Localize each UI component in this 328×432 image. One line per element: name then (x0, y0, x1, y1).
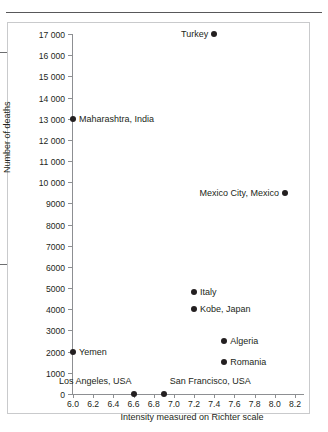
y-axis-tick: 15 000 (68, 76, 72, 77)
y-axis-tick-label: 4000 (46, 306, 65, 315)
y-axis-title: Number of deaths (2, 101, 12, 173)
data-point-label: Los Angeles, USA (59, 377, 132, 386)
y-axis-tick-label: 0 (60, 391, 65, 400)
y-axis-tick: 1000 (68, 373, 72, 374)
data-point-label: San Francisco, USA (170, 377, 251, 386)
x-axis-tick (113, 394, 114, 398)
data-point (221, 338, 227, 344)
x-axis-tick (255, 394, 256, 398)
x-axis-title: Intensity measured on Richter scale (73, 412, 311, 422)
data-point-label: Italy (200, 288, 217, 297)
y-axis-tick-label: 3000 (46, 327, 65, 336)
y-axis-tick: 5000 (68, 288, 72, 289)
y-axis-tick-label: 16 000 (39, 52, 65, 61)
y-axis-tick-label: 6000 (46, 264, 65, 273)
y-axis-tick: 8000 (68, 225, 72, 226)
x-axis-tick (275, 394, 276, 398)
plot-area: TurkeyMaharashtra, IndiaMexico City, Mex… (73, 34, 311, 394)
data-point-label: Yemen (79, 347, 107, 356)
data-point-label: Maharashtra, India (79, 114, 154, 123)
x-axis-line (72, 394, 304, 395)
y-axis-tick-label: 13 000 (39, 115, 65, 124)
y-axis-tick-label: 11 000 (39, 158, 65, 167)
x-axis-tick (234, 394, 235, 398)
y-axis-tick: 14 000 (68, 98, 72, 99)
data-point (221, 359, 227, 365)
y-axis-tick-label: 15 000 (39, 73, 65, 82)
y-axis-tick: 0 (68, 394, 72, 395)
data-point (282, 190, 288, 196)
x-axis-tick-label: 7.2 (188, 400, 200, 409)
x-axis-tick-label: 7.8 (249, 400, 261, 409)
y-axis-tick: 6000 (68, 267, 72, 268)
y-axis-tick: 4000 (68, 309, 72, 310)
x-axis-tick (93, 394, 94, 398)
x-axis-tick (295, 394, 296, 398)
y-axis-tick-label: 14 000 (39, 94, 65, 103)
x-axis-tick-label: 8.2 (289, 400, 301, 409)
x-axis-tick-label: 7.6 (228, 400, 240, 409)
y-axis-tick-label: 5000 (46, 285, 65, 294)
x-axis-tick (194, 394, 195, 398)
y-axis-tick: 11 000 (68, 161, 72, 162)
y-axis-tick-label: 17 000 (39, 31, 65, 40)
chart-figure: 010002000300040005000600070008000900010 … (7, 22, 310, 414)
page-top-rule (6, 12, 322, 13)
data-point-label: Mexico City, Mexico (200, 188, 279, 197)
x-axis-tick-label: 6.4 (107, 400, 119, 409)
data-point (191, 306, 197, 312)
x-axis-tick-label: 6.8 (148, 400, 160, 409)
data-point (131, 391, 137, 397)
y-axis-tick-label: 2000 (46, 348, 65, 357)
x-axis-tick (174, 394, 175, 398)
y-axis-tick: 7000 (68, 246, 72, 247)
y-axis-tick-label: 12 000 (39, 137, 65, 146)
data-point (191, 289, 197, 295)
x-axis-tick-label: 6.6 (128, 400, 140, 409)
data-point-label: Kobe, Japan (200, 305, 251, 314)
y-axis-tick-label: 10 000 (39, 179, 65, 188)
y-axis-tick: 16 000 (68, 55, 72, 56)
y-axis-tick-label: 9000 (46, 200, 65, 209)
y-axis-tick: 10 000 (68, 182, 72, 183)
y-axis-tick: 9000 (68, 203, 72, 204)
data-point-label: Algeria (230, 337, 258, 346)
data-point (70, 116, 76, 122)
data-point (70, 349, 76, 355)
x-axis-tick-label: 6.2 (87, 400, 99, 409)
x-axis-tick-label: 8.0 (269, 400, 281, 409)
x-axis-tick-label: 7.0 (168, 400, 180, 409)
x-axis-tick-label: 7.4 (208, 400, 220, 409)
y-axis-tick: 17 000 (68, 34, 72, 35)
x-axis-tick (73, 394, 74, 398)
data-point (161, 391, 167, 397)
y-axis-tick-label: 8000 (46, 221, 65, 230)
x-axis-tick (154, 394, 155, 398)
x-axis-tick-label: 6.0 (67, 400, 79, 409)
data-point-label: Romania (230, 358, 266, 367)
data-point (211, 31, 217, 37)
y-axis-tick: 12 000 (68, 140, 72, 141)
y-axis-tick-label: 7000 (46, 242, 65, 251)
y-axis-tick: 3000 (68, 330, 72, 331)
x-axis-tick (214, 394, 215, 398)
data-point-label: Turkey (181, 30, 208, 39)
